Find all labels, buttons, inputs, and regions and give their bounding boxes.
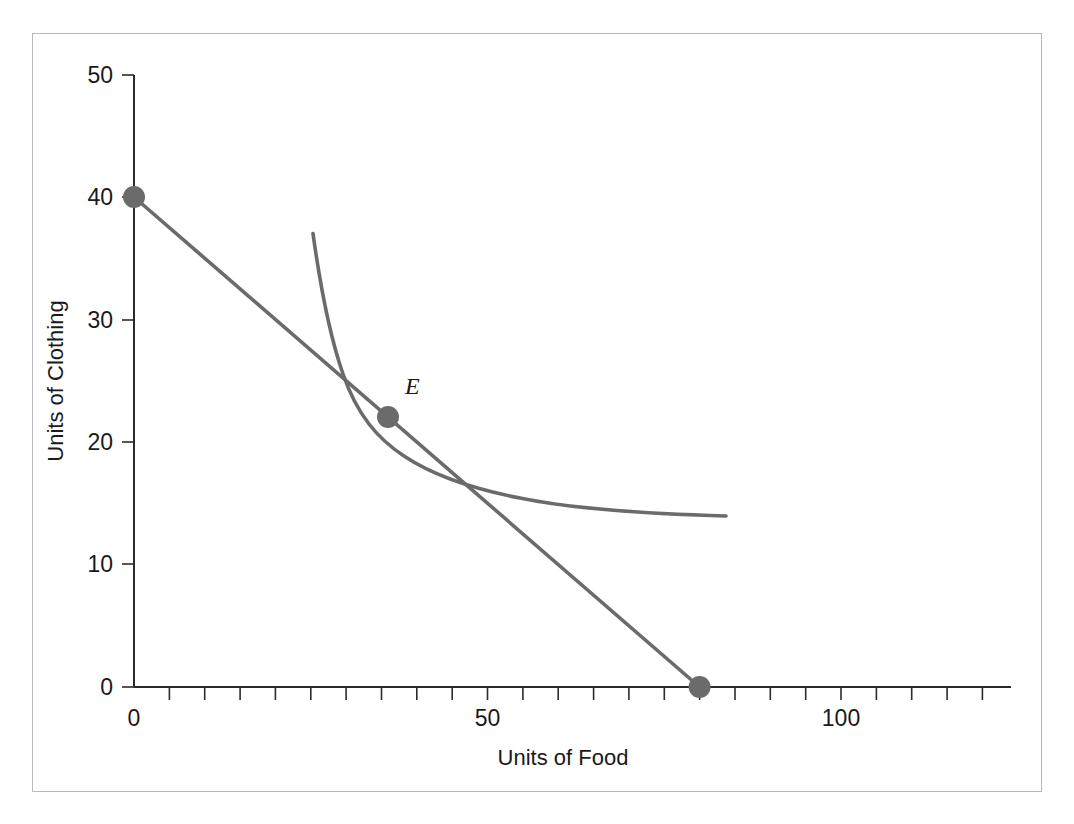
x-axis-title: Units of Food <box>498 745 629 770</box>
y-axis-title: Units of Clothing <box>43 300 68 461</box>
y-tick-label-20: 20 <box>87 429 113 455</box>
x-tick-label-50: 50 <box>475 705 501 731</box>
chart-plot-area: 50 40 30 20 10 0 Units of Clothing <box>33 34 1041 791</box>
y-tick-label-40: 40 <box>87 184 113 210</box>
point-clothing-intercept[interactable] <box>123 186 145 208</box>
indifference-curve <box>313 234 726 517</box>
y-tick-label-30: 30 <box>87 307 113 333</box>
x-tick-label-100: 100 <box>822 705 860 731</box>
figure-frame: 50 40 30 20 10 0 Units of Clothing <box>32 33 1042 792</box>
x-tick-label-0: 0 <box>128 705 141 731</box>
y-tick-label-0: 0 <box>100 674 113 700</box>
figure-root: 50 40 30 20 10 0 Units of Clothing <box>0 0 1074 824</box>
y-tick-label-10: 10 <box>87 551 113 577</box>
point-food-intercept[interactable] <box>689 676 711 698</box>
budget-line <box>134 197 700 687</box>
point-label-E: E <box>404 373 420 399</box>
point-equilibrium-E[interactable] <box>377 406 399 428</box>
y-tick-label-50: 50 <box>87 62 113 88</box>
